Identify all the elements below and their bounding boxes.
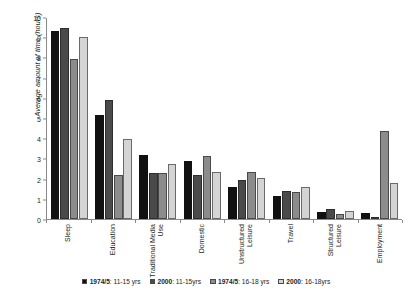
bar: [51, 31, 60, 219]
bar: [158, 173, 167, 219]
legend-label: 1974/5: 16-18 yrs: [218, 278, 269, 285]
x-category-label: Unstructured Leisure: [239, 224, 254, 278]
bar-group: [180, 18, 224, 219]
bar: [114, 175, 123, 219]
bar: [390, 183, 399, 219]
bar: [184, 161, 193, 219]
legend-item[interactable]: 1974/5: 16-18 yrs: [210, 278, 269, 285]
bar-group: [225, 18, 269, 219]
legend-item[interactable]: 2000: 16-18yrs: [278, 278, 330, 285]
x-category-label: Employment: [376, 224, 384, 263]
x-category: Education: [91, 222, 136, 278]
bar: [105, 100, 114, 219]
x-category: Domestic: [180, 222, 225, 278]
legend-swatch: [210, 279, 216, 285]
bar: [380, 131, 389, 219]
y-tick-mark: [43, 199, 46, 200]
bar-groups: [47, 18, 402, 219]
bar: [123, 139, 132, 219]
bar-group: [358, 18, 402, 219]
legend-item[interactable]: 2000: 11-15yrs: [150, 278, 202, 285]
x-category-label: Traditional Media Use: [150, 224, 165, 278]
legend-label: 1974/5: 11-15 yrs: [90, 278, 141, 285]
x-category: Travel: [269, 222, 314, 278]
x-axis-category-labels: SleepEducationTraditional Media UseDomes…: [46, 222, 402, 278]
bar: [371, 217, 380, 219]
legend-swatch: [150, 279, 156, 285]
bar: [212, 172, 221, 219]
x-category: Structured Leisure: [313, 222, 358, 278]
bar: [238, 180, 247, 219]
x-tick-mark: [402, 220, 403, 223]
bar: [282, 191, 291, 219]
bar: [203, 156, 212, 219]
bar: [326, 209, 335, 219]
legend-label: 2000: 16-18yrs: [286, 278, 330, 285]
y-tick-mark: [43, 139, 46, 140]
bar: [228, 187, 237, 219]
bar: [168, 164, 177, 219]
y-tick-mark: [43, 38, 46, 39]
legend-swatch: [82, 279, 88, 285]
bar-group: [47, 18, 91, 219]
bar: [257, 178, 266, 219]
x-category-label: Sleep: [64, 224, 72, 242]
x-category: Traditional Media Use: [135, 222, 180, 278]
bar: [361, 213, 370, 219]
y-tick-mark: [43, 179, 46, 180]
bar: [273, 196, 282, 219]
y-tick-mark: [43, 18, 46, 19]
bar: [292, 192, 301, 219]
plot-area: 012345678910: [46, 18, 402, 220]
bar-group: [269, 18, 313, 219]
y-tick-mark: [43, 58, 46, 59]
bar: [317, 212, 326, 219]
x-category-label: Structured Leisure: [328, 224, 343, 278]
bar: [345, 211, 354, 219]
x-category-label: Travel: [287, 224, 295, 243]
bar: [149, 173, 158, 219]
y-tick-mark: [43, 98, 46, 99]
legend-item[interactable]: 1974/5: 11-15 yrs: [82, 278, 141, 285]
bar: [79, 37, 88, 219]
bar: [60, 28, 69, 219]
y-tick-mark: [43, 159, 46, 160]
y-tick-mark: [43, 78, 46, 79]
chart-legend: 1974/5: 11-15 yrs2000: 11-15yrs1974/5: 1…: [0, 278, 412, 285]
bar: [336, 214, 345, 219]
bar: [70, 59, 79, 219]
bar: [95, 115, 104, 219]
bar: [193, 175, 202, 219]
x-category: Unstructured Leisure: [224, 222, 269, 278]
y-tick-mark: [43, 119, 46, 120]
x-category: Employment: [358, 222, 403, 278]
bar: [139, 155, 148, 219]
bar-chart: Average amount of time (hours) 012345678…: [0, 0, 412, 297]
x-category-label: Domestic: [198, 224, 206, 253]
bar: [247, 172, 256, 219]
bar-group: [91, 18, 135, 219]
bar-group: [313, 18, 357, 219]
bar: [301, 187, 310, 219]
bar-group: [136, 18, 180, 219]
x-category-label: Education: [109, 224, 117, 255]
x-category: Sleep: [46, 222, 91, 278]
legend-label: 2000: 11-15yrs: [158, 278, 202, 285]
legend-swatch: [278, 279, 284, 285]
